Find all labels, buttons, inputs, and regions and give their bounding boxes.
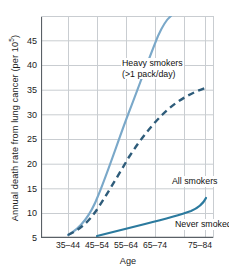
annotation-heavy-smokers-line2: (>1 pack/day)	[122, 69, 176, 79]
y-tick-40: 40	[14, 60, 37, 70]
x-tick-75-84: 75–84	[188, 240, 212, 250]
lung-cancer-death-rate-chart: Annual death rate from lung cancer (per …	[0, 0, 229, 272]
y-tick-35: 35	[14, 85, 37, 95]
y-tick-45: 45	[14, 36, 37, 46]
plot-svg	[41, 16, 214, 238]
y-tick-30: 30	[14, 110, 37, 120]
y-tick-15: 15	[14, 184, 37, 194]
y-tick-20: 20	[14, 159, 37, 169]
annotation-heavy-smokers-line1: Heavy smokers	[122, 58, 183, 68]
annotation-heavy-smokers: Heavy smokers (>1 pack/day)	[121, 58, 184, 79]
vertical-gridlines	[69, 16, 206, 238]
x-tick-35-44: 35–44	[56, 240, 80, 250]
y-tick-10: 10	[14, 208, 37, 218]
y-axis-tick-labels: 5 10 15 20 25 30 35 40 45	[14, 0, 37, 272]
annotation-all-smokers: All smokers	[171, 176, 218, 187]
plot-area: Heavy smokers (>1 pack/day) All smokers …	[41, 16, 214, 238]
x-axis-title: Age	[41, 256, 215, 266]
x-tick-45-54: 45–54	[85, 240, 109, 250]
annotation-never-smoked: Never smoked	[174, 219, 229, 230]
x-tick-65-74: 65–74	[143, 240, 167, 250]
x-axis-tick-labels: 35–44 45–54 55–64 65–74 75–84	[0, 240, 229, 256]
x-tick-55-64: 55–64	[114, 240, 138, 250]
plot-frame	[41, 16, 214, 238]
series-never-smoked-line	[97, 198, 206, 236]
y-tick-25: 25	[14, 134, 37, 144]
